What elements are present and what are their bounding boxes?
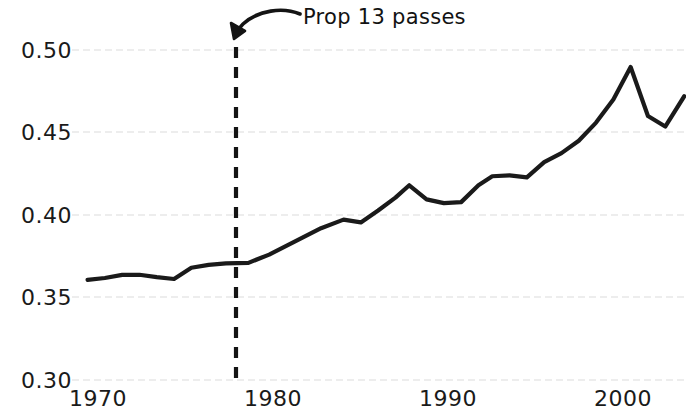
x-tick-label-1970: 1970: [53, 386, 143, 411]
data-series-line: [88, 67, 685, 280]
y-tick-label-0.50: 0.50: [0, 38, 72, 63]
y-tick-label-0.45: 0.45: [0, 120, 72, 145]
line-chart-plot: [0, 0, 686, 415]
annotation-arrow-icon: [231, 10, 300, 39]
x-tick-label-2000: 2000: [578, 386, 668, 411]
x-tick-label-1990: 1990: [403, 386, 493, 411]
y-tick-label-0.40: 0.40: [0, 203, 72, 228]
gridlines: [72, 50, 686, 380]
prop-13-annotation-label: Prop 13 passes: [303, 5, 466, 29]
y-tick-label-0.35: 0.35: [0, 285, 72, 310]
x-tick-label-1980: 1980: [228, 386, 318, 411]
chart-figure: 0.50 0.45 0.40 0.35 0.30 1970 1980 1990 …: [0, 0, 686, 415]
